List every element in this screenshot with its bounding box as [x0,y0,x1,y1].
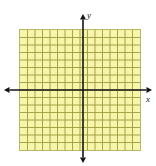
x-axis-label: x [146,95,150,104]
coordinate-plane-figure: y x [0,0,156,166]
y-axis-label: y [87,11,91,20]
axes-group [4,14,152,163]
axes-layer [0,0,156,166]
